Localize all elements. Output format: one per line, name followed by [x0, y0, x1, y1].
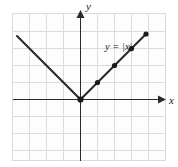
grid-panel	[13, 14, 166, 161]
curve-equation-label: y = |x|	[104, 41, 132, 52]
point-4-4	[143, 31, 148, 36]
absolute-value-graph-figure: y x y = |x|	[0, 0, 178, 167]
graph-canvas: y x y = |x|	[0, 0, 178, 167]
point-2-2	[112, 63, 117, 68]
y-axis-label: y	[85, 0, 91, 12]
x-axis-label: x	[168, 94, 174, 106]
point-origin	[77, 96, 83, 102]
point-1-1	[95, 80, 100, 85]
